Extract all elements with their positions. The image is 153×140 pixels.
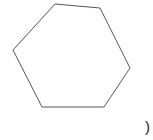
hexagon-figure xyxy=(0,0,153,140)
hexagon-shape xyxy=(13,4,130,107)
closing-parenthesis: ) xyxy=(145,119,150,134)
